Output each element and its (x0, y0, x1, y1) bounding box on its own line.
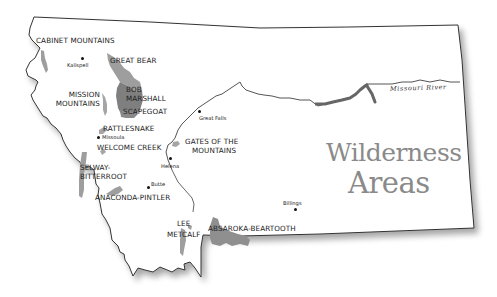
label-cabinet-mountains: CABINET MOUNTAINS (36, 37, 115, 46)
label-gates-2: MOUNTAINS (192, 147, 236, 156)
label-anaconda-pintler: ANACONDA-PINTLER (95, 194, 170, 203)
city-missoula: Missoula (102, 134, 124, 140)
label-rattlesnake: RATTLESNAKE (103, 125, 154, 134)
label-selway-2: BITTERROOT (80, 173, 127, 182)
label-welcome-creek: WELCOME CREEK (97, 144, 161, 153)
city-dot-billings (294, 208, 297, 211)
map-title-line1: Wilderness (326, 138, 462, 167)
city-dot-helena (169, 157, 172, 160)
label-scapegoat: SCAPEGOAT (123, 108, 167, 117)
label-bob-marshall-2: MARSHALL (126, 95, 166, 104)
city-butte: Butte (151, 181, 165, 187)
label-lee-metcalf-1: LEE (177, 220, 190, 229)
city-helena: Helena (161, 163, 179, 169)
label-mission-2: MOUNTAINS (40, 100, 100, 109)
label-lee-metcalf-2: METCALF (167, 231, 201, 240)
city-dot-missoula (97, 136, 100, 139)
city-great-falls: Great Falls (199, 115, 226, 121)
label-great-bear: GREAT BEAR (110, 57, 157, 66)
city-dot-butte (147, 186, 150, 189)
city-billings: Billings (283, 200, 302, 206)
city-dot-kalispell (81, 57, 84, 60)
map-title-line2: Areas (348, 166, 430, 200)
label-absaroka-beartooth: ABSAROKA-BEARTOOTH (208, 225, 296, 234)
city-kalispell: Kalispell (67, 62, 88, 68)
city-dot-great-falls (198, 110, 201, 113)
